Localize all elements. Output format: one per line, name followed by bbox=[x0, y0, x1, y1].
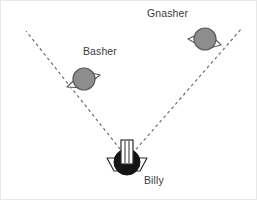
robot-gnasher[interactable] bbox=[188, 28, 221, 50]
billy-mast-icon bbox=[121, 140, 133, 164]
basher-body-icon bbox=[73, 68, 95, 90]
robot-label-basher: Basher bbox=[83, 45, 117, 57]
right-sight-line bbox=[132, 28, 242, 154]
gnasher-body-icon bbox=[194, 28, 216, 50]
robot-basher[interactable] bbox=[67, 68, 100, 90]
robot-label-billy: Billy bbox=[144, 174, 164, 186]
robot-billy[interactable] bbox=[107, 140, 147, 175]
vector-layer bbox=[1, 1, 257, 200]
diagram-canvas: Gnasher Basher Billy bbox=[0, 0, 257, 200]
robot-label-gnasher: Gnasher bbox=[147, 7, 188, 19]
